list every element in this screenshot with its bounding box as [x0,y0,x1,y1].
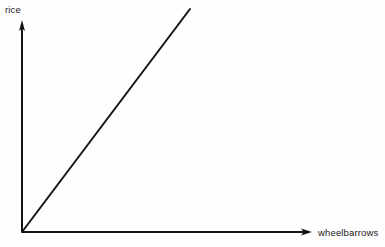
chart-plot-area [0,0,385,247]
chart-canvas: rice wheelbarrows [0,0,385,247]
x-axis-label: wheelbarrows [318,228,378,238]
data-line-rice-wheelbarrows [22,9,190,232]
y-axis-label: rice [5,5,21,15]
